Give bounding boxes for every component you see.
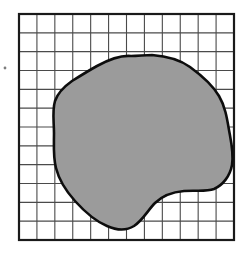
grid-figure-svg	[0, 0, 250, 255]
stray-mark-icon	[4, 67, 7, 70]
figure-container	[0, 0, 250, 255]
